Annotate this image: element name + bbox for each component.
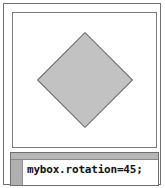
screenshot-root: mybox.rotation=45; bbox=[0, 0, 165, 188]
code-panel-titlebar bbox=[11, 153, 158, 160]
stage-canvas[interactable] bbox=[12, 12, 157, 148]
rotated-square-shape[interactable] bbox=[36, 32, 132, 128]
code-line-1: mybox.rotation=45; bbox=[27, 163, 143, 176]
code-editor-panel[interactable]: mybox.rotation=45; bbox=[10, 152, 159, 186]
code-editor-body[interactable]: mybox.rotation=45; bbox=[23, 160, 158, 185]
window-frame: mybox.rotation=45; bbox=[3, 3, 161, 185]
code-gutter bbox=[11, 160, 23, 185]
stage-background bbox=[13, 13, 156, 147]
shape-layer bbox=[13, 13, 156, 147]
